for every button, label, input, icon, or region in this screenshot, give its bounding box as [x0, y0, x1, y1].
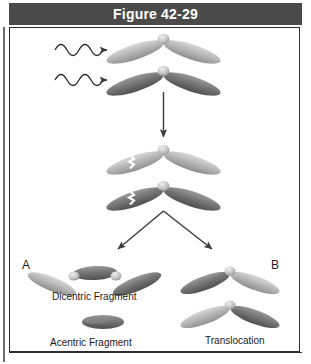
frame-left-rule: [3, 27, 5, 362]
panel-label-b: B: [271, 258, 279, 272]
centromere: [69, 271, 80, 280]
acentric-fragment-chromosome: [82, 315, 124, 329]
centromere: [225, 300, 236, 309]
caption-dicentric-fragment: Dicentric Fragment: [52, 291, 136, 302]
panel-label-a: A: [22, 258, 30, 272]
frame-bottom-rule: [9, 352, 302, 353]
caption-translocation: Translocation: [205, 335, 265, 346]
centromere: [158, 34, 170, 44]
centromere: [111, 271, 122, 280]
centromere: [225, 266, 236, 275]
figure-container: Figure 42-29: [0, 0, 311, 364]
figure-title-bar: Figure 42-29: [9, 3, 302, 25]
centromere: [158, 66, 170, 76]
caption-acentric-fragment: Acentric Fragment: [50, 337, 132, 348]
figure-title: Figure 42-29: [113, 6, 198, 22]
